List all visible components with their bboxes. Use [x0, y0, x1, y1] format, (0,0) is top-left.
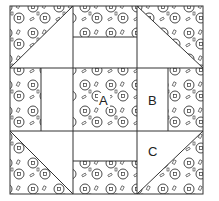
label-c: C — [148, 145, 157, 158]
quilt-block-diagram: A B C — [0, 0, 219, 201]
bottom-middle-print-strip — [73, 161, 137, 194]
label-b: B — [148, 94, 157, 107]
label-a: A — [99, 94, 108, 107]
middle-right-print-strip — [168, 68, 203, 131]
top-middle-print-strip — [73, 6, 137, 37]
middle-left-print-strip — [10, 68, 41, 131]
